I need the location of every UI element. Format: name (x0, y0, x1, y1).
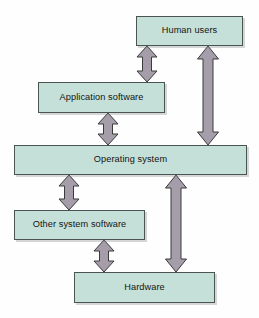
node-label-hardware: Hardware (124, 283, 164, 292)
connector-application-software-to-operating-system (98, 113, 118, 145)
diagram-canvas: Human usersApplication softwareOperating… (0, 0, 259, 318)
node-label-operating-system: Operating system (94, 155, 167, 164)
diagram-root: Human usersApplication softwareOperating… (0, 0, 259, 318)
node-human-users: Human users (136, 16, 243, 46)
connector-human-users-to-application-software (137, 46, 157, 82)
connector-operating-system-to-hardware (166, 175, 187, 272)
node-label-human-users: Human users (162, 26, 218, 35)
node-operating-system: Operating system (14, 145, 247, 175)
node-label-other-system-software: Other system software (33, 220, 127, 229)
node-other-system-software: Other system software (14, 210, 145, 240)
node-label-application-software: Application software (60, 93, 144, 102)
node-application-software: Application software (38, 82, 165, 113)
connector-other-system-software-to-hardware (94, 240, 114, 272)
connector-operating-system-to-other-system-software (59, 175, 79, 210)
node-hardware: Hardware (74, 272, 215, 303)
connector-human-users-to-operating-system (198, 46, 219, 145)
